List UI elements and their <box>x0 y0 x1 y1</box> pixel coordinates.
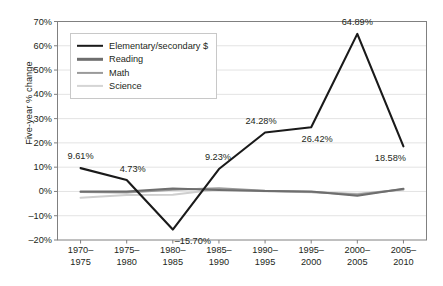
legend-item-label: Reading <box>109 54 143 64</box>
legend-line-swatch-icon <box>77 81 103 91</box>
legend-item-1[interactable]: Reading <box>77 53 210 67</box>
legend-item-label: Science <box>109 81 142 91</box>
legend-line-swatch-icon <box>77 68 103 78</box>
data-point-label: 24.28% <box>245 116 276 126</box>
data-point-label: 9.23% <box>205 152 231 162</box>
plot-area <box>0 0 443 286</box>
data-point-label: 9.61% <box>68 151 94 161</box>
legend-line-swatch-icon <box>77 54 103 64</box>
legend-item-3[interactable]: Science <box>77 80 210 94</box>
line-chart: Five-year % change 70%60%50%40%30%20%10%… <box>0 0 443 286</box>
legend-line-swatch-icon <box>77 41 103 51</box>
legend-item-2[interactable]: Math <box>77 66 210 80</box>
legend-item-label: Elementary/secondary $ <box>109 41 208 51</box>
data-point-label: 64.89% <box>342 17 373 27</box>
chart-legend: Elementary/secondary $ReadingMathScience <box>70 33 217 99</box>
data-point-label: 4.73% <box>120 164 146 174</box>
legend-item-label: Math <box>109 68 129 78</box>
data-point-label: –15.70% <box>175 236 211 246</box>
data-point-label: 26.42% <box>302 134 333 144</box>
legend-item-0[interactable]: Elementary/secondary $ <box>77 39 210 53</box>
data-point-label: 18.58% <box>375 153 406 163</box>
